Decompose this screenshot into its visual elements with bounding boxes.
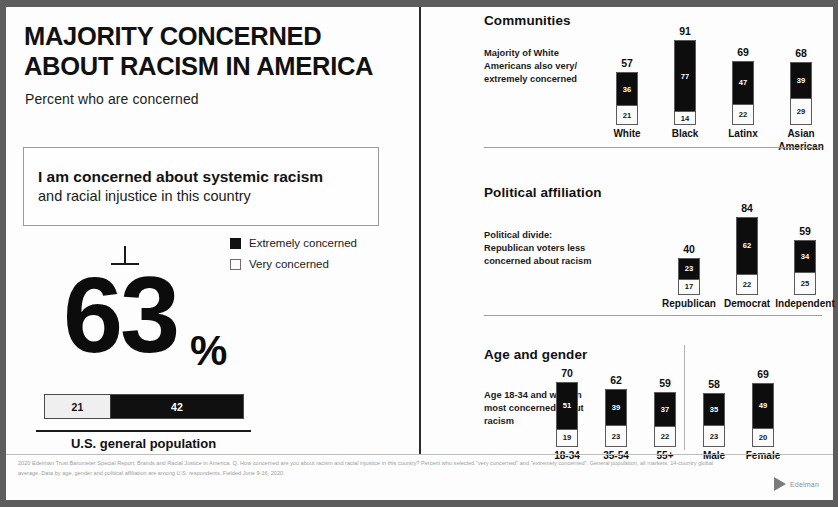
bar-category-label: Female [732, 450, 794, 463]
stacked-bar: 5119 [556, 382, 578, 447]
page-title: MAJORITY CONCERNED ABOUT RACISM IN AMERI… [24, 21, 394, 81]
bar-column: 694920Female [735, 327, 791, 457]
bar-total-label: 57 [599, 57, 655, 69]
bar-column: 917714Black [657, 7, 713, 137]
bar-segment-very: 22 [733, 104, 753, 124]
bar-category-label: Asian American [770, 128, 832, 153]
bar-segment-extremely: 35 [704, 394, 724, 425]
stacked-bar: 7714 [674, 40, 696, 125]
stacked-bar: 6222 [736, 217, 758, 295]
bar-segment-very: 21 [617, 105, 637, 124]
legend-swatch-dark-icon [230, 238, 241, 249]
bar-category-label: Latinx [712, 128, 774, 141]
bar-segment-extremely: 36 [617, 73, 637, 105]
headline-statistic: 63 [63, 265, 177, 364]
statement-bold-line: I am concerned about systemic racism [38, 168, 323, 186]
bar-total-label: 59 [777, 225, 833, 237]
stacked-bar: 3523 [703, 393, 725, 447]
hero-bar-baseline [36, 430, 251, 432]
frame-edge-right [833, 0, 838, 507]
bar-total-label: 69 [735, 368, 791, 380]
stacked-bar: 3425 [794, 240, 816, 295]
stacked-bar: 3923 [605, 389, 627, 447]
stacked-bar: 3621 [616, 72, 638, 125]
bar-column: 62392335-54 [588, 327, 644, 457]
charts-panel: CommunitiesMajority of White Americans a… [421, 7, 833, 454]
hero-stacked-bar: 21 42 [44, 394, 244, 419]
bar-column: 694722Latinx [715, 7, 771, 137]
bar-segment-extremely: 39 [791, 63, 811, 98]
bar-category-label: Democrat [716, 298, 778, 311]
stacked-bar: 4920 [752, 383, 774, 447]
frame-edge-top [0, 0, 838, 7]
bar-segment-very: 22 [655, 426, 675, 446]
chart-section-title: Political affiliation [484, 185, 602, 200]
bar-segment-very: 23 [606, 425, 626, 446]
headline-statistic-unit: % [190, 327, 226, 375]
bar-total-label: 40 [661, 243, 717, 255]
bar-category-label: Independent [774, 298, 836, 311]
bar-segment-extremely: 49 [753, 384, 773, 428]
bar-segment-extremely: 34 [795, 241, 815, 271]
bar-group-separator [684, 345, 685, 450]
bar-total-label: 84 [719, 202, 775, 214]
bar-column: 593425Independent [777, 167, 833, 297]
chart-section-note: Political divide: Republican voters less… [484, 229, 596, 269]
bar-total-label: 62 [588, 374, 644, 386]
legend-swatch-light-icon [230, 259, 241, 270]
footer-divider [6, 454, 833, 455]
survey-statement-box: I am concerned about systemic racism and… [23, 147, 379, 226]
edelman-logo: Edelman [774, 477, 819, 491]
hero-bar-segment-very: 21 [45, 395, 111, 418]
frame-edge-bottom [0, 500, 838, 507]
bar-segment-very: 29 [791, 98, 811, 124]
bar-column: 573621White [599, 7, 655, 137]
bar-segment-extremely: 77 [675, 41, 695, 111]
bar-category-label: Black [654, 128, 716, 141]
bar-segment-extremely: 37 [655, 393, 675, 426]
bar-total-label: 69 [715, 46, 771, 58]
bar-segment-extremely: 51 [557, 383, 577, 429]
bar-segment-very: 20 [753, 428, 773, 446]
bar-column: 846222Democrat [719, 167, 775, 297]
bar-segment-extremely: 47 [733, 62, 753, 104]
stacked-bar: 3929 [790, 62, 812, 125]
hero-panel: MAJORITY CONCERNED ABOUT RACISM IN AMERI… [6, 7, 419, 454]
bar-total-label: 58 [686, 378, 742, 390]
bar-segment-very: 19 [557, 429, 577, 446]
bar-column: 683929Asian American [773, 7, 829, 137]
bar-category-label: White [596, 128, 658, 141]
infographic-page: MAJORITY CONCERNED ABOUT RACISM IN AMERI… [0, 0, 838, 507]
legend-item-very-concerned: Very concerned [230, 258, 357, 270]
hero-bar-caption: U.S. general population [36, 436, 251, 451]
bar-segment-very: 25 [795, 272, 815, 294]
logo-wordmark: Edelman [790, 481, 819, 488]
section-divider [484, 315, 822, 316]
legend-label: Extremely concerned [249, 237, 357, 249]
bar-segment-extremely: 62 [737, 218, 757, 274]
bar-column: 402317Republican [661, 167, 717, 297]
infographic-sheet: MAJORITY CONCERNED ABOUT RACISM IN AMERI… [6, 7, 833, 500]
bar-total-label: 91 [657, 25, 713, 37]
hero-bar-segment-extremely: 42 [111, 395, 243, 418]
chart-section-title: Communities [484, 13, 571, 28]
chart-legend: Extremely concerned Very concerned [230, 237, 357, 279]
page-subtitle: Percent who are concerned [25, 91, 199, 107]
statement-regular-line: and racial injustice in this country [38, 188, 251, 204]
bar-column: 583523Male [686, 327, 742, 457]
legend-label: Very concerned [249, 258, 329, 270]
bar-segment-extremely: 23 [679, 259, 699, 279]
bar-segment-very: 22 [737, 274, 757, 294]
bar-segment-extremely: 39 [606, 390, 626, 425]
bar-segment-very: 23 [704, 425, 724, 446]
bar-category-label: Republican [658, 298, 720, 311]
arrow-icon [774, 477, 786, 491]
bar-total-label: 70 [539, 367, 595, 379]
legend-item-extremely-concerned: Extremely concerned [230, 237, 357, 249]
stacked-bar: 4722 [732, 61, 754, 125]
stacked-bar: 3722 [654, 392, 676, 447]
stacked-bar: 2317 [678, 258, 700, 295]
bar-segment-very: 17 [679, 279, 699, 294]
section-divider [484, 147, 822, 148]
bar-segment-very: 14 [675, 111, 695, 124]
